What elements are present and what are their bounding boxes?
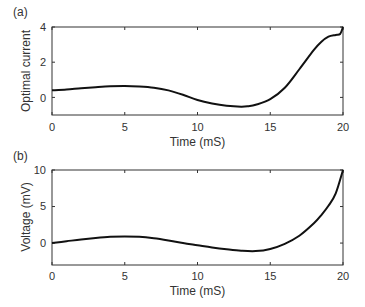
plot-b-xtick-20: 20 (337, 270, 349, 282)
plot-b-line (52, 170, 343, 251)
plot-a-xtick-15: 15 (264, 121, 276, 133)
plot-a-ytick-0: 0 (40, 92, 46, 104)
plot-b-frame (52, 170, 343, 265)
plot-b-xtick-15: 15 (264, 270, 276, 282)
plot-b-xlabel: Time (mS) (170, 284, 226, 298)
plot-a-ylabel: Optimal current (19, 29, 33, 112)
plot-a-xtick-0: 0 (49, 121, 55, 133)
plot-b-xtick-10: 10 (191, 270, 203, 282)
plot-a-xtick-20: 20 (337, 121, 349, 133)
plot-a-line (52, 27, 343, 107)
plot-a-ytick-2: 2 (40, 56, 46, 68)
plot-b-y-ticks (52, 170, 343, 243)
plot-a-xtick-5: 5 (122, 121, 128, 133)
plot-a-xlabel: Time (mS) (170, 135, 226, 149)
plot-b-xtick-5: 5 (122, 270, 128, 282)
plot-a-ytick-4: 4 (40, 21, 46, 33)
plot-a-x-ticks (52, 27, 343, 115)
panel-a: (a) 0 5 10 15 20 0 2 4 Time (mS) Optimal… (13, 5, 349, 149)
plot-a-xtick-10: 10 (191, 121, 203, 133)
plot-b-ytick-5: 5 (40, 200, 46, 212)
plot-b-x-ticks (52, 170, 343, 265)
plot-b-ytick-0: 0 (40, 237, 46, 249)
plot-b-xtick-0: 0 (49, 270, 55, 282)
plot-a-frame (52, 27, 343, 115)
plot-b-ytick-10: 10 (34, 164, 46, 176)
plot-b-ylabel: Voltage (mV) (19, 182, 33, 251)
figure: (a) 0 5 10 15 20 0 2 4 Time (mS) Optimal… (0, 0, 365, 307)
panel-b-label: (b) (13, 149, 28, 163)
panel-b: (b) 0 5 10 15 20 0 5 10 Time (mS) Voltag… (13, 149, 349, 298)
panel-a-label: (a) (13, 5, 28, 19)
